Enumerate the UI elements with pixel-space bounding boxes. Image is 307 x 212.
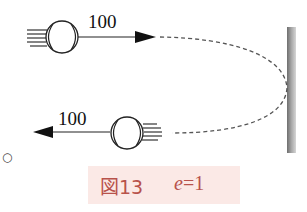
speed-lines-icon xyxy=(142,124,162,140)
figure-caption: 図13 e=1 xyxy=(88,166,240,204)
restitution-variable: e xyxy=(174,172,183,194)
figure-label: 図13 xyxy=(100,172,143,199)
outgoing-speed-label: 100 xyxy=(58,108,87,130)
wall xyxy=(287,27,296,153)
speed-lines-icon xyxy=(27,30,47,46)
incoming-speed-label: 100 xyxy=(88,11,117,33)
restitution-value: =1 xyxy=(183,172,204,194)
outgoing-ball xyxy=(111,117,162,149)
trajectory-path xyxy=(160,37,287,133)
incoming-ball xyxy=(27,21,78,53)
marker-symbol: ○ xyxy=(2,150,12,164)
restitution-equation: e=1 xyxy=(174,172,204,195)
